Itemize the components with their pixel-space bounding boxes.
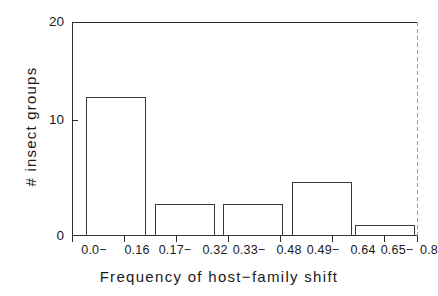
- x-tick-label-4: 0.33−: [227, 243, 271, 257]
- y-tick-label-20: 20: [30, 14, 64, 29]
- bar-3: [292, 182, 352, 236]
- y-tick-label-10: 10: [30, 112, 64, 127]
- x-tick-label-8: 0.65−: [375, 243, 419, 257]
- x-tick-label-6: 0.49−: [301, 243, 345, 257]
- bar-0: [86, 97, 146, 236]
- x-tick-mark-5: [332, 236, 333, 242]
- x-tick-mark-2: [176, 236, 177, 242]
- x-tick-mark-4: [280, 236, 281, 242]
- x-tick-mark-6: [384, 236, 385, 242]
- x-tick-mark-7: [417, 236, 418, 242]
- x-tick-label-2: 0.17−: [153, 243, 197, 257]
- y-tick-label-0: 0: [30, 228, 64, 243]
- bar-1: [155, 204, 215, 236]
- x-tick-label-9: 0.8: [414, 243, 438, 257]
- x-tick-label-0: 0.0−: [72, 243, 116, 257]
- x-tick-mark-1: [124, 236, 125, 242]
- x-tick-label-1: 0.16: [118, 243, 156, 257]
- x-tick-mark-0: [72, 236, 73, 242]
- plot-right-spine: [417, 22, 418, 236]
- histogram-figure: # insect groups 20 10 0 0.0− 0.16 0.17− …: [0, 0, 438, 296]
- x-tick-mark-3: [228, 236, 229, 242]
- x-axis-title: Frequency of host−family shift: [0, 268, 438, 285]
- bar-2: [223, 204, 283, 236]
- bar-4: [355, 225, 415, 236]
